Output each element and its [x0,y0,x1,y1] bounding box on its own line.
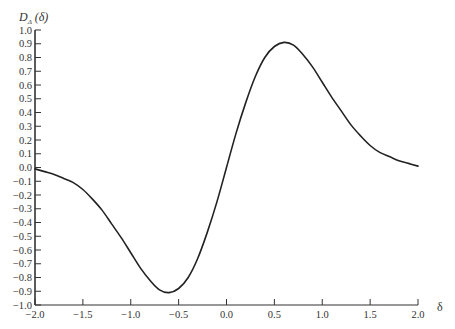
y-tick-label: −0.5 [13,231,32,242]
x-tick-label: 1.5 [364,309,377,320]
chart: DΔ(δ) 1.00.90.80.70.60.50.40.30.20.10.0−… [0,0,455,329]
y-tick-label: −0.1 [13,176,32,187]
y-tick-label: 1.0 [19,25,32,36]
y-tick-label: −0.9 [13,286,32,297]
y-tick-label: −0.7 [13,258,32,269]
y-tick-label: 0.8 [19,52,32,63]
x-tick-label: −2.0 [25,309,44,320]
y-tick-label: −0.8 [13,272,32,283]
y-tick-label: −0.4 [13,217,33,228]
y-axis: 1.00.90.80.70.60.50.40.30.20.10.0−0.1−0.… [13,25,41,311]
x-tick-label: 2.0 [411,309,424,320]
y-tick-label: −0.6 [13,245,32,256]
x-tick-label: −1.5 [73,309,92,320]
x-tick-label: 0.5 [268,309,281,320]
y-axis-label-arg: (δ) [35,10,49,24]
y-tick-label: −0.3 [13,203,32,214]
x-axis-label: δ [437,300,443,314]
y-tick-label: 0.3 [19,121,32,132]
y-tick-label: 0.7 [19,66,32,77]
y-tick-label: 0.6 [19,80,32,91]
y-tick-label: 0.5 [19,93,32,104]
y-tick-label: 0.9 [19,38,32,49]
y-tick-label: 0.0 [19,162,32,173]
y-axis-label-main: D [18,10,28,24]
y-tick-label: 0.1 [19,148,32,159]
x-tick-label: −1.0 [121,309,140,320]
x-tick-label: −0.5 [169,309,188,320]
x-axis: −2.0−1.5−1.0−0.50.00.51.01.52.0 [25,299,424,320]
y-tick-label: −0.2 [13,190,32,201]
y-tick-label: 0.2 [19,135,32,146]
data-curve [35,42,418,292]
y-tick-label: 0.4 [19,107,33,118]
x-tick-label: 1.0 [316,309,329,320]
x-tick-label: 0.0 [220,309,233,320]
